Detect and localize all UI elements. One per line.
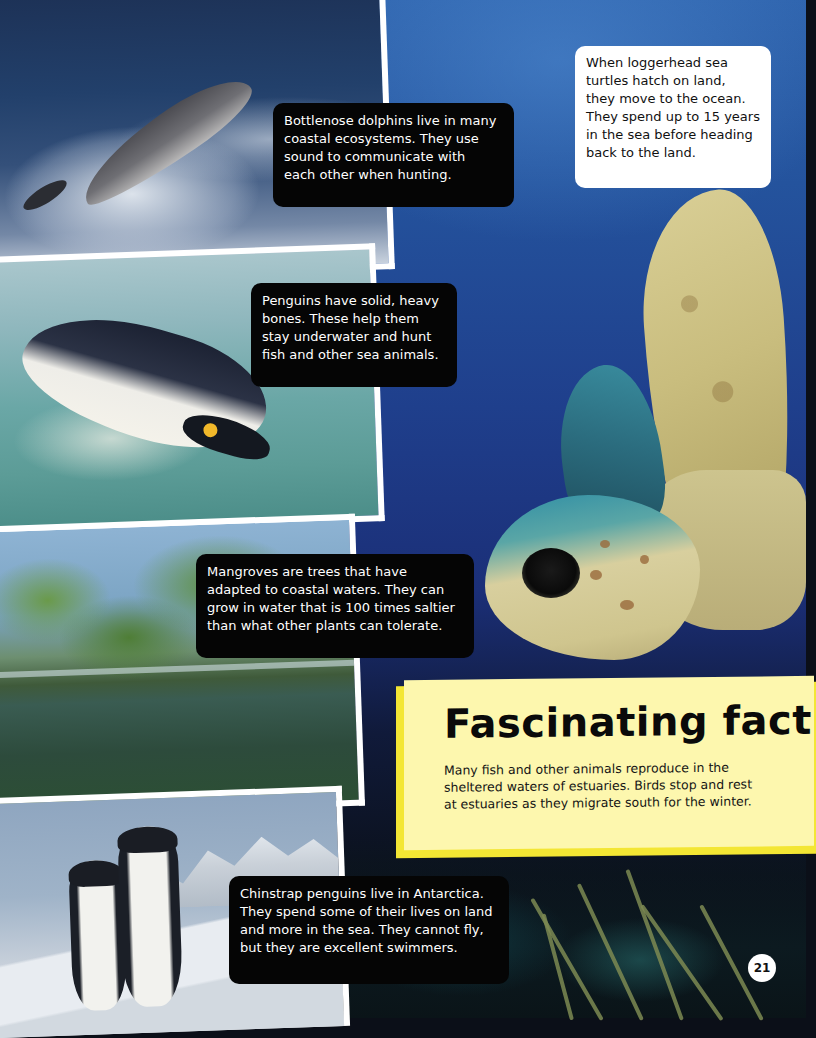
caption-line: adapted to coastal waters. They can (207, 581, 464, 599)
caption-line: and more in the sea. They cannot fly, (240, 921, 499, 939)
chinstrap-caption: Chinstrap penguins live in Antarctica. T… (229, 876, 509, 984)
caption-line: they move to the ocean. (586, 90, 761, 108)
caption-line: fish and other sea animals. (262, 346, 447, 364)
caption-line: turtles hatch on land, (586, 72, 761, 90)
penguin-cap (68, 860, 123, 888)
caption-line: grow in water that is 100 times saltier (207, 599, 464, 617)
penguin-caption: Penguins have solid, heavy bones. These … (251, 283, 457, 387)
caption-line: Chinstrap penguins live in Antarctica. (240, 885, 499, 903)
page-number: 21 (748, 954, 776, 982)
caption-line: stay underwater and hunt (262, 328, 447, 346)
fascinating-fact-box: Fascinating fact Many fish and other ani… (404, 676, 814, 850)
coral-branch (577, 883, 644, 1021)
water-surface-line (0, 660, 354, 679)
dolphin-caption: Bottlenose dolphins live in many coastal… (273, 103, 514, 207)
turtle-spot (600, 540, 610, 548)
dolphin-tail (20, 175, 71, 215)
caption-line: coastal ecosystems. They use (284, 130, 504, 148)
chinstrap-penguin (117, 826, 183, 1008)
caption-line: than what other plants can tolerate. (207, 617, 464, 635)
fact-title: Fascinating fact (444, 694, 814, 750)
turtle-spot (590, 570, 602, 580)
caption-line: They spend up to 15 years (586, 108, 761, 126)
dolphin-body (69, 64, 262, 216)
turtle-eye (522, 548, 580, 598)
caption-line: each other when hunting. (284, 166, 504, 184)
penguin-cap (117, 826, 178, 854)
caption-line: but they are excellent swimmers. (240, 939, 499, 957)
caption-line: They spend some of their lives on land (240, 903, 499, 921)
caption-line: sound to communicate with (284, 148, 504, 166)
caption-line: in the sea before heading (586, 126, 761, 144)
fact-line: at estuaries as they migrate south for t… (444, 792, 814, 813)
caption-line: When loggerhead sea (586, 54, 761, 72)
caption-line: back to the land. (586, 144, 761, 162)
caption-line: Bottlenose dolphins live in many (284, 112, 504, 130)
caption-line: Mangroves are trees that have (207, 563, 464, 581)
caption-line: Penguins have solid, heavy (262, 292, 447, 310)
mangrove-caption: Mangroves are trees that have adapted to… (196, 554, 474, 658)
fact-body: Many fish and other animals reproduce in… (444, 758, 814, 813)
caption-line: bones. These help them (262, 310, 447, 328)
turtle-spot (640, 555, 649, 564)
turtle-caption: When loggerhead sea turtles hatch on lan… (575, 46, 771, 188)
turtle-spot (620, 600, 634, 610)
